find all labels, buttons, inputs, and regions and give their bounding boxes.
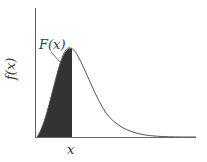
- chart-canvas: [0, 0, 207, 162]
- y-axis-label: f(x): [4, 58, 17, 80]
- x-axis-label: x: [67, 143, 74, 156]
- annotation-leader-line: [51, 52, 60, 62]
- cdf-annotation-label: F(x): [39, 38, 66, 51]
- cdf-shaded-area: [37, 48, 72, 137]
